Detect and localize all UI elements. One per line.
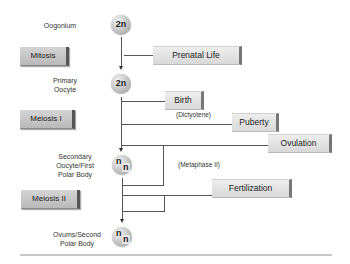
label-line: Ovums/Second <box>45 230 109 239</box>
annotation-dictyotene: (Dictyotene) <box>176 111 211 118</box>
ploidy-text: n <box>116 228 122 238</box>
cell-secondary-oocyte-circle: n n <box>112 155 132 175</box>
connector-ovulation-branch <box>163 145 164 185</box>
arrow-down-icon <box>120 219 124 223</box>
phase-meiosis-1: Meiosis I <box>20 110 75 129</box>
label-secondary-oocyte: Secondary Oocyte/First Polar Body <box>45 152 105 179</box>
connector-line <box>121 97 122 149</box>
cell-oogonium-circle: 2n <box>111 15 131 35</box>
event-birth: Birth <box>165 91 204 110</box>
label-ovum: Ovums/Second Polar Body <box>45 230 109 248</box>
connector-ovulation <box>122 145 268 146</box>
event-ovulation: Ovulation <box>268 134 332 153</box>
cell-primary-oocyte-circle: 2n <box>111 74 131 94</box>
label-line: Oocyte/First <box>45 161 105 170</box>
label-oogonium: Oogonium <box>30 21 90 30</box>
connector-line <box>121 37 122 67</box>
annotation-metaphase-2: (Metaphase II) <box>178 161 220 168</box>
event-fertilization: Fertilization <box>212 179 292 198</box>
ploidy-text: n <box>116 156 122 166</box>
label-line: Polar Body <box>45 239 109 248</box>
arrow-down-icon <box>119 148 123 152</box>
ploidy-text: 2n <box>111 78 131 88</box>
event-puberty: Puberty <box>232 113 279 132</box>
connector-fertilization <box>122 195 212 196</box>
label-line: Secondary <box>45 152 105 161</box>
arrow-down-icon <box>119 66 123 70</box>
label-line: Oocyte <box>35 85 95 94</box>
connector-birth <box>122 101 165 102</box>
connector-fertilization-branch <box>164 195 165 211</box>
phase-meiosis-2: Meiosis II <box>21 190 80 209</box>
event-prenatal-life: Prenatal Life <box>153 46 242 65</box>
label-line: Polar Body <box>45 170 105 179</box>
cell-ovum-circle: n n <box>112 227 132 247</box>
bottom-divider <box>20 254 332 256</box>
phase-mitosis: Mitosis <box>20 47 69 66</box>
connector-puberty <box>122 124 232 125</box>
label-line: Primary <box>35 76 95 85</box>
ploidy-text-2: n <box>122 235 130 244</box>
connector-fertilization-return <box>122 211 165 212</box>
connector-prenatal <box>124 55 153 56</box>
ploidy-text-2: n <box>122 163 130 172</box>
label-primary-oocyte: Primary Oocyte <box>35 76 95 94</box>
connector-ovulation-return <box>122 185 164 186</box>
ploidy-text: 2n <box>111 19 131 29</box>
